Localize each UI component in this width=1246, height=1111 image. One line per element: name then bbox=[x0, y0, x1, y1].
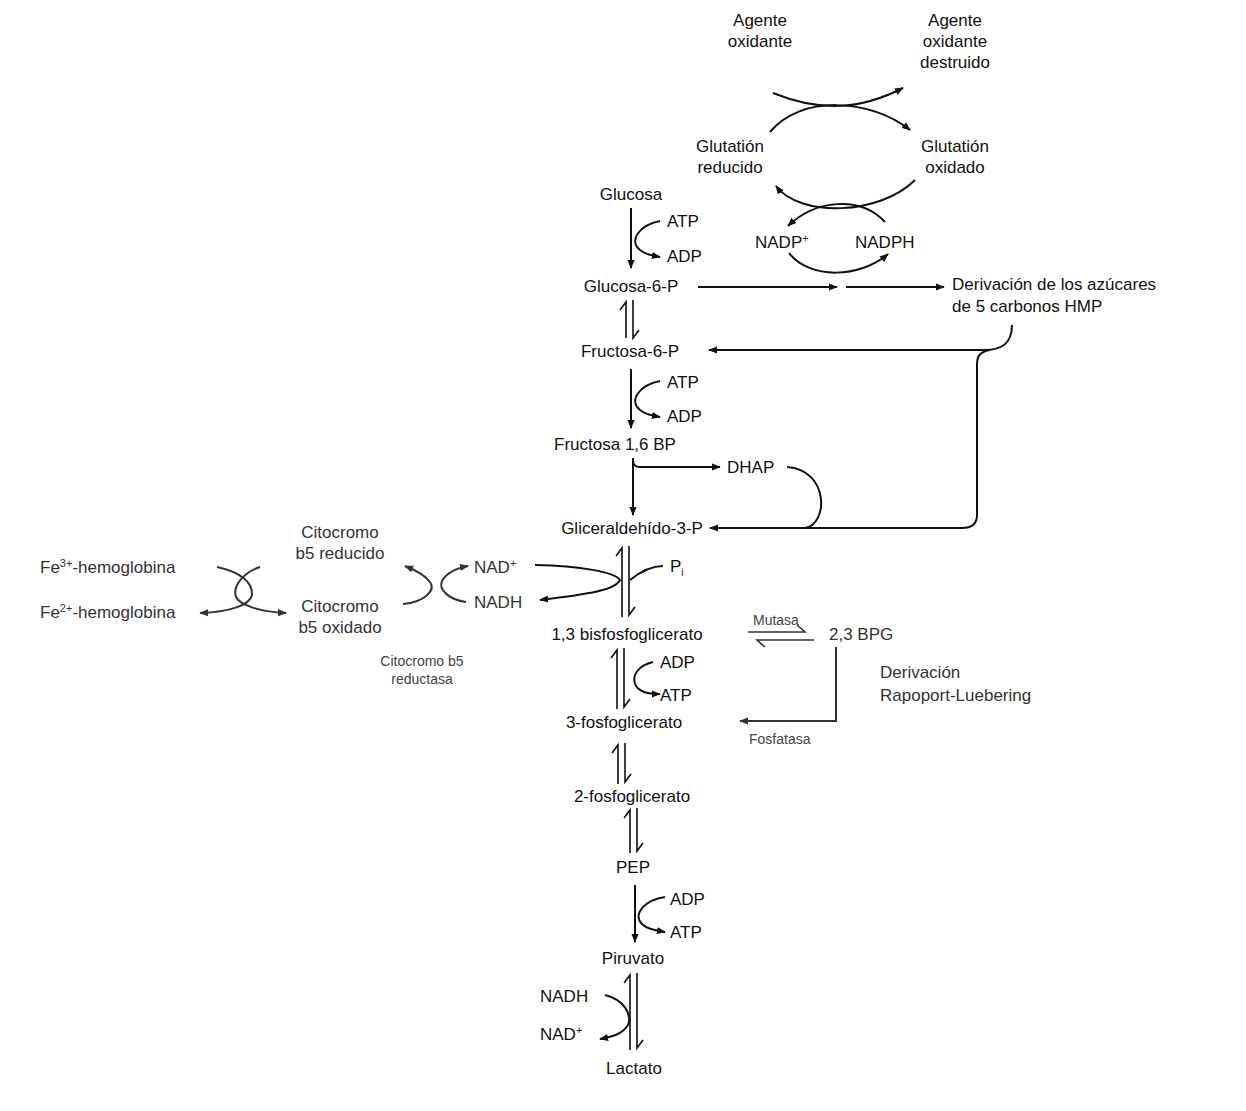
label-rapoport-luebering-shunt: Derivación Rapoport-Luebering bbox=[880, 661, 1031, 707]
label-lactate: Lactato bbox=[606, 1058, 662, 1079]
label-fe2-hemoglobin: Fe2+-hemoglobina bbox=[40, 602, 175, 623]
label-adp-3: ADP bbox=[660, 652, 695, 673]
label-nad-plus-lactate: NAD+ bbox=[540, 1024, 582, 1045]
label-atp-4: ATP bbox=[670, 922, 702, 943]
label-mutase: Mutasa bbox=[753, 611, 799, 629]
label-oxidized-glutathione: Glutatión oxidado bbox=[921, 136, 989, 178]
label-oxidizing-agent: Agente oxidante bbox=[728, 10, 792, 52]
label-nadh: NADH bbox=[474, 592, 522, 613]
label-2-phosphoglycerate: 2-fosfoglicerato bbox=[574, 786, 690, 807]
label-glyceraldehyde-3p: Gliceraldehído-3-P bbox=[561, 518, 703, 539]
label-nadh-lactate: NADH bbox=[540, 986, 588, 1007]
label-glucose-6p: Glucosa-6-P bbox=[584, 276, 678, 297]
label-atp-2: ATP bbox=[667, 372, 699, 393]
label-cytochrome-b5-reductase: Citocromo b5 reductasa bbox=[380, 652, 463, 688]
label-pi: Pi bbox=[670, 556, 684, 577]
label-adp-2: ADP bbox=[667, 406, 702, 427]
label-pep: PEP bbox=[616, 857, 650, 878]
label-reduced-glutathione: Glutatión reducido bbox=[696, 136, 764, 178]
label-nad-plus: NAD+ bbox=[474, 557, 516, 578]
label-fe3-hemoglobin: Fe3+-hemoglobina bbox=[40, 557, 175, 578]
label-pyruvate: Piruvato bbox=[602, 948, 664, 969]
label-fructose-6p: Fructosa-6-P bbox=[581, 341, 679, 362]
label-nadp-plus: NADP+ bbox=[755, 232, 809, 253]
label-13-bisphosphoglycerate: 1,3 bisfosfoglicerato bbox=[551, 624, 702, 645]
label-hmp-shunt: Derivación de los azúcares de 5 carbonos… bbox=[952, 274, 1156, 318]
label-cytochrome-b5-reduced: Citocromo b5 reducido bbox=[296, 522, 385, 564]
label-atp-1: ATP bbox=[667, 211, 699, 232]
label-23-bpg: 2,3 BPG bbox=[829, 624, 893, 645]
label-cytochrome-b5-oxidized: Citocromo b5 oxidado bbox=[298, 596, 381, 638]
label-phosphatase: Fosfatasa bbox=[749, 730, 810, 748]
label-adp-4: ADP bbox=[670, 889, 705, 910]
label-dhap: DHAP bbox=[727, 457, 774, 478]
pathway-arrows bbox=[0, 0, 1246, 1111]
label-nadph: NADPH bbox=[855, 232, 915, 253]
label-adp-1: ADP bbox=[667, 246, 702, 267]
label-fructose-16bp: Fructosa 1,6 BP bbox=[554, 434, 676, 455]
label-atp-3: ATP bbox=[660, 685, 692, 706]
label-glucose: Glucosa bbox=[600, 184, 662, 205]
label-oxidizing-agent-destroyed: Agente oxidante destruido bbox=[920, 10, 990, 73]
label-3-phosphoglycerate: 3-fosfoglicerato bbox=[566, 712, 682, 733]
